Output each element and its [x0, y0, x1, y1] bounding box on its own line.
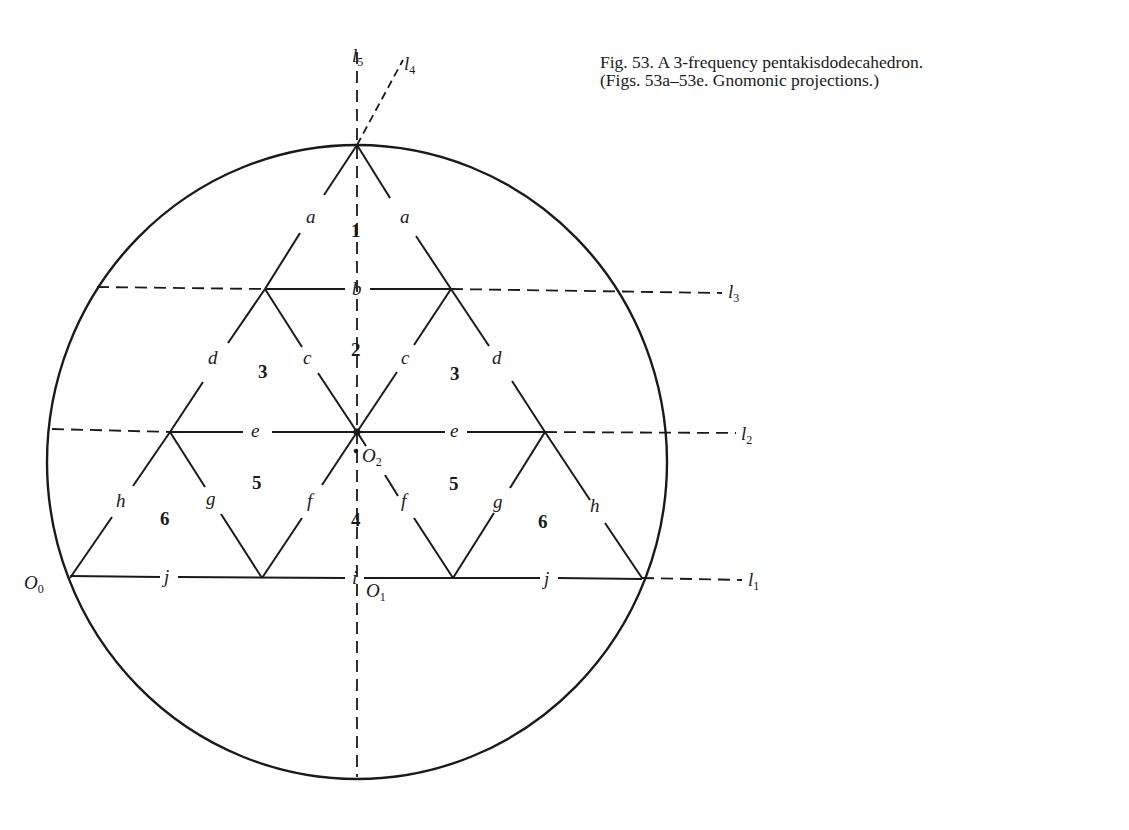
region-label-6-left: 6: [160, 508, 170, 529]
edge-label-h-left: h: [116, 490, 126, 511]
gnomonic-projection-diagram: a a b c c d d e e f f g g h h i j j 1 2 …: [0, 0, 1129, 830]
region-label-3-right: 3: [450, 363, 460, 384]
line-label-l4: l4: [404, 53, 415, 77]
line-l3-left: [97, 287, 265, 289]
line-label-l3: l3: [728, 281, 739, 305]
point-label-o2: O2: [362, 445, 382, 469]
edge-label-c-left: c: [303, 347, 312, 368]
edge-label-e-left: e: [251, 420, 259, 441]
edge-label-j-left: j: [161, 566, 169, 587]
reference-lines: [52, 52, 742, 777]
point-label-o1: O1: [366, 580, 386, 604]
line-l4: [357, 60, 403, 145]
point-o2-dot: [354, 449, 359, 454]
region-label-2: 2: [351, 339, 361, 360]
line-l1-right: [642, 578, 742, 580]
line-l2-left: [52, 429, 170, 432]
edge-label-i: i: [352, 567, 357, 588]
edge-label-f-right: f: [401, 490, 409, 511]
line-label-l2: l2: [741, 423, 752, 447]
edge-label-g-right: g: [493, 491, 503, 512]
region-label-5-right: 5: [449, 473, 459, 494]
region-label-1: 1: [351, 220, 361, 241]
line-labels: l5 l4 l3 l2 l1: [352, 45, 759, 593]
point-center-vertex: [354, 429, 361, 436]
region-label-4: 4: [351, 509, 361, 530]
line-label-l1: l1: [748, 569, 759, 593]
edge-label-h-right: h: [590, 495, 600, 516]
line-l3-right: [451, 289, 722, 293]
edge-label-c-right: c: [401, 347, 410, 368]
edge-label-a-right: a: [400, 206, 410, 227]
edge-label-b: b: [352, 278, 362, 299]
region-label-5-left: 5: [252, 472, 262, 493]
point-label-o0: O0: [24, 572, 44, 596]
region-label-6-right: 6: [538, 511, 548, 532]
line-l2-right: [545, 432, 736, 433]
edge-label-e-right: e: [450, 420, 458, 441]
region-label-3-left: 3: [258, 361, 268, 382]
edge-label-g-left: g: [206, 488, 216, 509]
edge-label-a-left: a: [306, 206, 316, 227]
region-labels: 1 2 3 3 4 5 5 6 6: [160, 220, 548, 532]
edge-label-d-left: d: [208, 347, 218, 368]
edge-label-j-right: j: [541, 568, 549, 589]
edge-label-d-right: d: [492, 347, 502, 368]
edge-label-f-left: f: [307, 490, 315, 511]
line-label-l5: l5: [352, 45, 363, 69]
